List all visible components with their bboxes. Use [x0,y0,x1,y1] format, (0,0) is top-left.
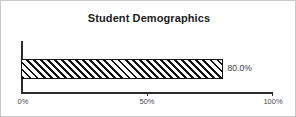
bar-chart-figure: Student Demographics 80.0% 0% 50% 100% [0,0,296,117]
x-tick-label-100: 100% [263,97,282,106]
bar-value-label: 80.0% [228,63,252,73]
bar-segment [21,59,223,79]
x-tick-label-50: 50% [139,97,154,106]
x-axis-tick-100 [272,92,273,96]
chart-title: Student Demographics [1,12,296,24]
x-axis-tick-50 [147,92,148,96]
x-tick-label-0: 0% [18,97,29,106]
